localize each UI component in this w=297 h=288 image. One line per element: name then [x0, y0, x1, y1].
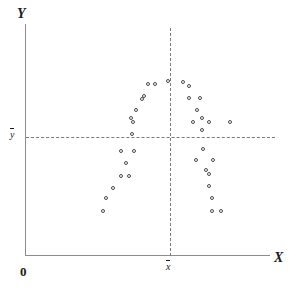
data-point	[194, 158, 198, 162]
data-point	[146, 82, 150, 86]
data-point	[207, 184, 211, 188]
y-mean-label-text: y	[10, 130, 14, 140]
data-point	[129, 116, 133, 120]
data-point	[101, 209, 105, 213]
x-mean-label-text: x	[166, 262, 170, 272]
data-point	[207, 172, 211, 176]
data-point	[210, 209, 214, 213]
plot-area	[0, 0, 297, 288]
data-point	[207, 120, 211, 124]
data-point	[131, 120, 135, 124]
data-point	[124, 161, 128, 165]
data-point	[200, 116, 204, 120]
y-axis-label: Y	[17, 7, 26, 21]
data-point	[134, 108, 138, 112]
data-point	[187, 84, 191, 88]
data-point	[211, 158, 215, 162]
data-point	[127, 174, 131, 178]
data-point	[132, 149, 136, 153]
data-point	[195, 108, 199, 112]
data-point	[153, 82, 157, 86]
x-axis-label: X	[274, 251, 283, 265]
data-point	[142, 94, 146, 98]
data-point	[130, 132, 134, 136]
data-point	[198, 96, 202, 100]
data-point	[187, 96, 191, 100]
y-mean-label: y	[10, 130, 14, 140]
origin-label: 0	[20, 265, 27, 278]
data-point	[104, 196, 108, 200]
data-point	[200, 128, 204, 132]
data-point	[119, 174, 123, 178]
data-point	[111, 186, 115, 190]
data-point	[166, 79, 170, 83]
data-point	[210, 196, 214, 200]
data-point	[219, 209, 223, 213]
scatter-plot-figure: Y X 0 x y	[0, 0, 297, 288]
x-mean-label: x	[166, 262, 170, 272]
data-point	[201, 147, 205, 151]
data-point	[191, 120, 195, 124]
data-point	[119, 149, 123, 153]
data-point	[228, 120, 232, 124]
data-point	[181, 80, 185, 84]
